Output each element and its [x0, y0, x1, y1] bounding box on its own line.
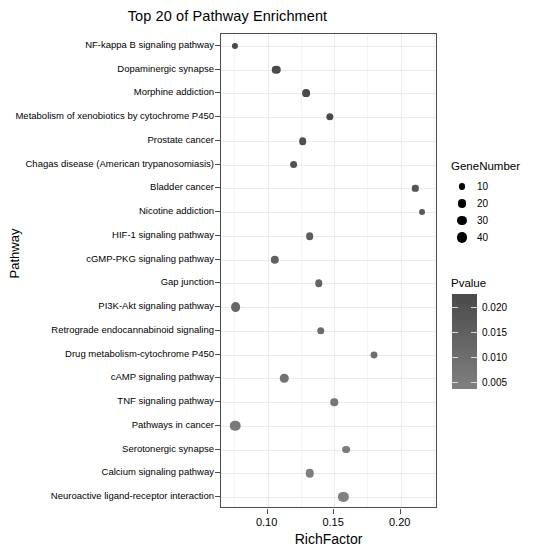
pvalue-colorbar [452, 294, 477, 389]
pvalue-colorbar-tick [471, 307, 477, 308]
data-point [280, 374, 289, 383]
footer-caption [0, 548, 533, 555]
y-axis-tick-label: Serotonergic synapse [122, 444, 214, 454]
y-axis-tick-label: PI3K-Akt signaling pathway [98, 301, 214, 311]
gridline-vertical-minor [367, 34, 368, 507]
x-axis-tick-label: 0.20 [380, 516, 420, 528]
y-axis-tick-mark [215, 259, 220, 260]
data-point [342, 446, 350, 454]
y-axis-tick-label: Drug metabolism-cytochrome P450 [65, 349, 214, 359]
x-axis-tick-mark [400, 509, 401, 514]
pvalue-colorbar-tick [471, 382, 477, 383]
gene-number-legend-title: GeneNumber [451, 160, 533, 172]
pvalue-colorbar-tick [452, 307, 458, 308]
gene-number-legend-item: 20 [451, 195, 533, 212]
y-axis-tick-mark [215, 211, 220, 212]
y-axis-tick-label: cAMP signaling pathway [111, 372, 214, 382]
gridline-horizontal [221, 331, 436, 332]
gridline-vertical-major [268, 34, 269, 507]
x-axis-tick-mark [267, 509, 268, 514]
gridline-vertical-minor [301, 34, 302, 507]
gene-number-legend-item: 40 [451, 229, 533, 246]
data-point [327, 113, 334, 120]
y-axis-tick-label: Gap junction [161, 277, 214, 287]
x-axis-tick-label: 0.10 [247, 516, 287, 528]
gene-number-legend-dot-wrap [451, 232, 473, 243]
gridline-horizontal [221, 46, 436, 47]
data-point [302, 89, 310, 97]
gridline-vertical-major [401, 34, 402, 507]
pvalue-legend: Pvalue 0.0200.0150.0100.005 [451, 277, 533, 389]
gridline-horizontal [221, 402, 436, 403]
gridline-horizontal [221, 355, 436, 356]
y-axis-tick-label: Retrograde endocannabinoid signaling [51, 325, 214, 335]
data-point [232, 43, 238, 49]
x-axis-title: RichFactor [220, 531, 437, 547]
gridline-horizontal [221, 260, 436, 261]
pvalue-colorbar-tick [452, 382, 458, 383]
y-axis-tick-mark [215, 330, 220, 331]
gene-number-legend: GeneNumber 10203040 [451, 160, 533, 246]
y-axis-tick-label: Neuroactive ligand-receptor interaction [51, 491, 214, 501]
gridline-horizontal [221, 450, 436, 451]
gene-number-legend-label: 10 [477, 181, 488, 192]
y-axis-tick-mark [215, 164, 220, 165]
gridline-vertical-minor [234, 34, 235, 507]
pathway-enrichment-chart: Top 20 of Pathway Enrichment NF-kappa B … [0, 0, 533, 555]
gridline-horizontal [221, 188, 436, 189]
pvalue-colorbar-tick [452, 357, 458, 358]
y-axis-tick-label: Morphine addiction [134, 87, 214, 97]
gridline-horizontal [221, 378, 436, 379]
gridline-horizontal [221, 307, 436, 308]
gene-number-legend-dot [457, 232, 468, 243]
data-point [338, 492, 348, 502]
data-point [305, 469, 314, 478]
gridline-horizontal [221, 426, 436, 427]
y-axis-tick-mark [215, 140, 220, 141]
y-axis-tick-mark [215, 496, 220, 497]
gridline-horizontal [221, 141, 436, 142]
gridline-horizontal [221, 497, 436, 498]
pvalue-legend-title: Pvalue [451, 277, 533, 289]
y-axis-tick-label: Metabolism of xenobiotics by cytochrome … [15, 111, 214, 121]
gridline-horizontal [221, 212, 436, 213]
pvalue-colorbar-label: 0.020 [482, 301, 507, 312]
y-axis-tick-label: Calcium signaling pathway [102, 467, 214, 477]
data-point [272, 65, 281, 74]
data-point [419, 209, 425, 215]
gridline-horizontal [221, 165, 436, 166]
gene-number-legend-dot-wrap [451, 216, 473, 226]
y-axis-tick-label: TNF signaling pathway [117, 396, 214, 406]
gene-number-legend-label: 20 [477, 198, 488, 209]
gridline-vertical-major [334, 34, 335, 507]
data-point [315, 280, 322, 287]
gene-number-legend-dot-wrap [451, 183, 473, 190]
y-axis-tick-labels: NF-kappa B signaling pathwayDopaminergic… [0, 0, 214, 555]
plot-panel [220, 33, 437, 508]
gene-number-legend-dot [457, 216, 467, 226]
gridline-horizontal [221, 70, 436, 71]
y-axis-tick-mark [215, 116, 220, 117]
y-axis-tick-label: Bladder cancer [150, 182, 214, 192]
y-axis-title: Pathway [7, 214, 22, 294]
pvalue-colorbar-wrap: 0.0200.0150.0100.005 [451, 294, 529, 389]
y-axis-tick-label: Chagas disease (American trypanosomiasis… [26, 159, 215, 169]
y-axis-tick-label: Prostate cancer [147, 135, 214, 145]
y-axis-tick-mark [215, 425, 220, 426]
data-point [290, 161, 298, 169]
gridline-horizontal [221, 93, 436, 94]
y-axis-tick-mark [215, 69, 220, 70]
data-point [330, 398, 337, 405]
gene-number-legend-item: 30 [451, 212, 533, 229]
data-point [271, 255, 279, 263]
pvalue-colorbar-tick [471, 332, 477, 333]
gene-number-legend-items: 10203040 [451, 178, 533, 246]
y-axis-tick-mark [215, 306, 220, 307]
y-axis-tick-mark [215, 187, 220, 188]
y-axis-tick-mark [215, 449, 220, 450]
y-axis-tick-mark [215, 354, 220, 355]
gridline-horizontal [221, 473, 436, 474]
y-axis-tick-mark [215, 282, 220, 283]
pvalue-colorbar-label: 0.015 [482, 326, 507, 337]
y-axis-tick-mark [215, 45, 220, 46]
